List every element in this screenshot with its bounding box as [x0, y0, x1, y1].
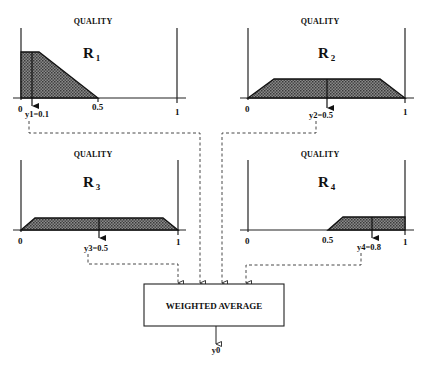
panel-r2: QUALITY R2 0 1 y2=0.5 — [240, 17, 414, 120]
rule-label: R3 — [83, 174, 101, 192]
output-label: y1=0.1 — [25, 109, 49, 119]
connector-y3 — [88, 254, 178, 283]
output-label: y3=0.5 — [84, 243, 108, 253]
panel-header: QUALITY — [74, 150, 113, 159]
tick-0-5: 0.5 — [322, 235, 334, 245]
panel-header: QUALITY — [301, 17, 340, 26]
tick-0: 0 — [245, 236, 250, 246]
panel-r4: QUALITY R4 0 0.5 1 y4=0.8 — [240, 150, 414, 252]
panel-r1: QUALITY R1 0 0.5 1 y1=0.1 — [13, 17, 186, 119]
rule-label: R4 — [318, 174, 336, 192]
connectors — [29, 121, 361, 283]
connector-y1 — [29, 121, 200, 283]
connector-y4 — [246, 253, 361, 283]
tick-0: 0 — [18, 236, 23, 246]
tick-1: 1 — [176, 237, 181, 247]
output-label: y4=0.8 — [357, 242, 381, 252]
tick-1: 1 — [403, 107, 408, 117]
panel-header: QUALITY — [74, 17, 113, 26]
rule-label: R1 — [83, 45, 101, 63]
tick-0-5: 0.5 — [92, 102, 104, 112]
rule-label: R2 — [318, 45, 336, 63]
tick-1: 1 — [175, 107, 180, 117]
tick-1: 1 — [403, 237, 408, 247]
weighted-average-block: WEIGHTED AVERAGE y0 — [144, 284, 284, 355]
connector-y2 — [222, 121, 316, 283]
panel-r3: QUALITY R3 0 1 y3=0.5 — [13, 150, 186, 253]
panel-header: QUALITY — [301, 150, 340, 159]
output-label: y2=0.5 — [309, 110, 333, 120]
tick-0: 0 — [18, 104, 23, 114]
weighted-average-diagram: QUALITY R1 0 0.5 1 y1=0.1 QUALITY R2 0 1… — [0, 0, 427, 371]
tick-0: 0 — [245, 104, 250, 114]
output-label-y0: y0 — [212, 345, 221, 355]
aggregator-label: WEIGHTED AVERAGE — [166, 301, 263, 311]
membership-area — [328, 217, 405, 230]
